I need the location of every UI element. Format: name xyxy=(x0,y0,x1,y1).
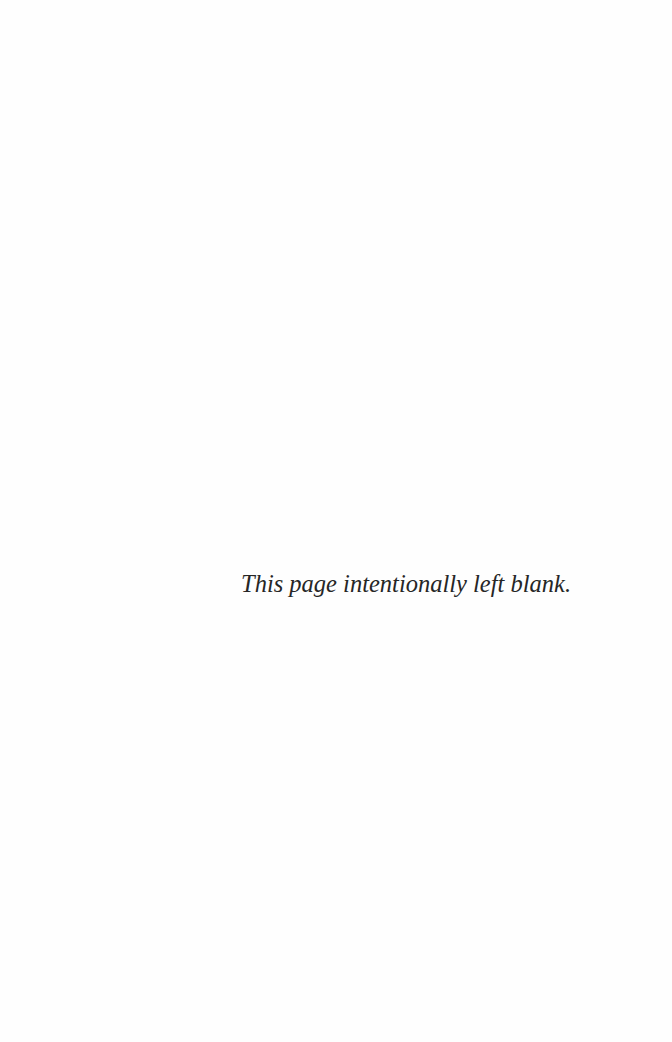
intentionally-blank-notice: This page intentionally left blank. xyxy=(241,567,541,601)
blank-page: This page intentionally left blank. xyxy=(0,0,672,1042)
